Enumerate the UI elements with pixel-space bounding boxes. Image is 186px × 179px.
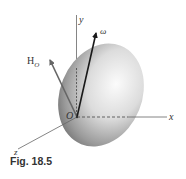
origin-point xyxy=(76,116,78,118)
diagram-canvas xyxy=(0,0,186,179)
origin-label: O xyxy=(66,111,73,121)
omega-label: ω xyxy=(100,27,106,36)
figure-caption: Fig. 18.5 xyxy=(10,155,52,167)
rigid-body-ellipsoid xyxy=(43,31,159,160)
h-subscript: O xyxy=(34,61,39,69)
x-axis-label: x xyxy=(169,112,173,122)
angular-momentum-label: HO xyxy=(27,55,39,69)
y-axis-label: y xyxy=(79,15,83,25)
